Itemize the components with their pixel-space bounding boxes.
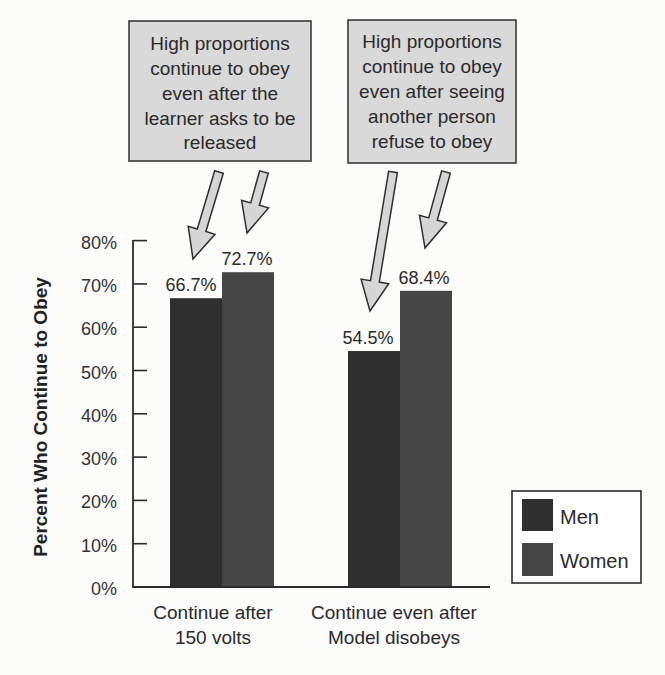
obedience-bar-chart: High proportions continue to obey even a… [0, 0, 665, 675]
arrow-down-left-icon [420, 171, 451, 248]
y-axis-label: Percent Who Continue to Obey [30, 277, 51, 557]
y-axis-ticks [133, 241, 147, 587]
legend-label-men: Men [560, 506, 599, 528]
arrow-down-left-icon [242, 171, 269, 233]
y-axis-tick-labels: 0% 10% 20% 30% 40% 50% 60% 70% 80% [81, 233, 117, 599]
category-label: Continue even after [311, 602, 478, 623]
annotation-line: High proportions [362, 31, 501, 52]
category-label: 150 volts [175, 627, 251, 648]
annotation-callout-1: High proportions continue to obey even a… [129, 21, 311, 161]
y-tick-label: 70% [81, 276, 117, 296]
arrow-down-left-icon [188, 171, 223, 259]
annotation-line: refuse to obey [372, 131, 493, 152]
legend-swatch-women [522, 543, 553, 576]
annotation-line: learner asks to be [144, 108, 295, 129]
annotation-line: continue to obey [362, 56, 502, 77]
value-label: 66.7% [165, 275, 216, 295]
y-tick-label: 80% [81, 233, 117, 253]
legend: Men Women [512, 491, 641, 583]
bar-men-model-disobeys [348, 351, 400, 587]
y-tick-label: 40% [81, 406, 117, 426]
legend-label-women: Women [560, 550, 629, 572]
bar-women-150-volts [222, 272, 274, 587]
value-label: 68.4% [398, 268, 449, 288]
bar-men-150-volts [170, 298, 222, 587]
y-tick-label: 20% [81, 492, 117, 512]
category-label: Model disobeys [328, 627, 460, 648]
value-label: 54.5% [342, 328, 393, 348]
y-tick-label: 30% [81, 449, 117, 469]
category-label: Continue after [153, 602, 273, 623]
annotation-callout-2: High proportions continue to obey even a… [348, 20, 516, 163]
annotation-line: even after seeing [359, 81, 505, 102]
annotation-line: continue to obey [150, 58, 290, 79]
legend-swatch-men [522, 499, 553, 531]
bars [170, 272, 452, 587]
annotation-line: even after the [162, 83, 278, 104]
y-tick-label: 10% [81, 536, 117, 556]
arrow-down-left-icon [361, 171, 397, 311]
annotation-line: released [184, 132, 257, 153]
annotation-line: High proportions [150, 33, 289, 54]
value-label: 72.7% [221, 249, 272, 269]
x-axis-category-labels: Continue after 150 volts Continue even a… [153, 602, 477, 648]
annotation-line: another person [368, 106, 496, 127]
y-tick-label: 50% [81, 363, 117, 383]
bar-women-model-disobeys [400, 291, 452, 587]
y-tick-label: 60% [81, 319, 117, 339]
y-tick-label: 0% [91, 579, 117, 599]
